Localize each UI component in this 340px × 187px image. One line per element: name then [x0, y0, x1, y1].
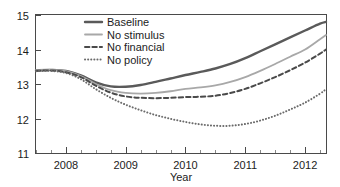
series-line-no-stimulus — [36, 35, 326, 94]
legend-label-no-stimulus: No stimulus — [107, 29, 165, 41]
x-axis-title: Year — [170, 171, 193, 183]
x-tick-label-2008: 2008 — [54, 159, 78, 171]
line-chart: 1112131415 20082009201020112012 Baseline… — [0, 0, 340, 187]
series-group — [36, 22, 326, 126]
legend-label-baseline: Baseline — [107, 16, 149, 28]
chart-container: 1112131415 20082009201020112012 Baseline… — [0, 0, 340, 187]
x-tick-label-2011: 2011 — [233, 159, 257, 171]
y-tick-label-15: 15 — [17, 10, 29, 22]
chart-legend: BaselineNo stimulusNo financialNo policy — [85, 16, 165, 66]
y-tick-label-14: 14 — [17, 45, 29, 57]
x-tick-label-2010: 2010 — [173, 159, 197, 171]
y-axis: 1112131415 — [17, 10, 41, 160]
series-line-no-policy — [36, 71, 326, 126]
x-axis: 20082009201020112012 — [37, 147, 321, 171]
legend-label-no-financial: No financial — [107, 41, 164, 53]
legend-label-no-policy: No policy — [107, 54, 153, 66]
y-tick-label-13: 13 — [17, 79, 29, 91]
plot-frame — [36, 15, 327, 154]
y-tick-label-12: 12 — [17, 114, 29, 126]
x-tick-label-2012: 2012 — [293, 159, 317, 171]
y-tick-label-11: 11 — [18, 148, 29, 160]
x-tick-label-2009: 2009 — [113, 159, 137, 171]
